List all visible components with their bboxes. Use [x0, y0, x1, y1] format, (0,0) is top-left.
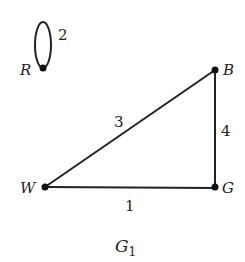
- node-label-W: W: [20, 179, 37, 197]
- node-W: [42, 184, 49, 191]
- node-G: [212, 184, 219, 191]
- edge-W-G: [45, 187, 215, 188]
- graph-svg: R B W G 2 3 4 1 G1: [0, 0, 245, 262]
- node-label-R: R: [19, 61, 31, 79]
- edge-W-B: [45, 70, 215, 187]
- graph-subscript: 1: [129, 245, 137, 259]
- edge-loop-R: [35, 22, 51, 68]
- node-label-G: G: [222, 179, 234, 197]
- edge-weight-W-B: 3: [114, 113, 124, 131]
- graph-diagram: R B W G 2 3 4 1 G1: [0, 0, 245, 262]
- edge-weight-B-G: 4: [221, 122, 231, 140]
- node-R: [40, 65, 47, 72]
- graph-name: G: [115, 236, 129, 256]
- edge-weight-loop-R: 2: [58, 26, 68, 44]
- edge-weight-W-G: 1: [125, 197, 135, 215]
- node-B: [212, 67, 219, 74]
- node-label-B: B: [222, 61, 234, 79]
- graph-caption: G1: [115, 236, 136, 259]
